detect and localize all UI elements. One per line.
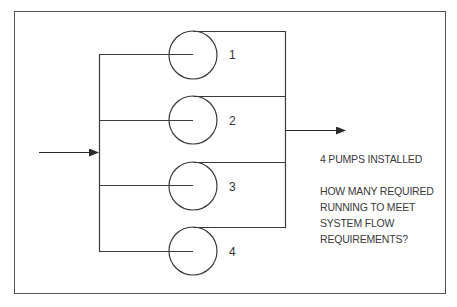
question-line-1: HOW MANY REQUIRED — [320, 186, 434, 197]
pump-1-label: 1 — [229, 49, 236, 61]
pumps-installed-note: 4 PUMPS INSTALLED — [320, 154, 422, 165]
question-line-3: SYSTEM FLOW — [320, 218, 394, 229]
suction-branches — [99, 55, 193, 252]
pumps — [169, 31, 217, 275]
pump-4-label: 4 — [229, 246, 236, 258]
question-line-2: RUNNING TO MEET — [320, 202, 415, 213]
question-line-4: REQUIREMENTS? — [320, 234, 408, 245]
pump-2-label: 2 — [229, 115, 236, 127]
pump-3-label: 3 — [229, 181, 236, 193]
discharge-branches — [193, 32, 286, 228]
